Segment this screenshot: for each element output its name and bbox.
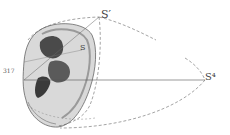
ear-diagram xyxy=(0,0,230,135)
label-s: S xyxy=(80,43,85,52)
figure-number: 317 xyxy=(3,67,14,74)
dashed-arc-right xyxy=(185,58,205,80)
label-s4: S⁴ xyxy=(205,71,216,82)
label-s-prime: S′ xyxy=(101,8,111,21)
